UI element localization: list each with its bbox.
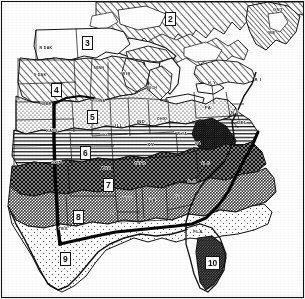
zone-label-5: 5 [87, 110, 98, 124]
state-label-la: LA [111, 211, 118, 216]
zone-label-4: 4 [51, 83, 62, 97]
state-label-r-i: R I [255, 77, 262, 82]
state-label-del: DEL [237, 120, 247, 125]
state-label-tex: TEX [58, 226, 68, 231]
state-label-me: ME [268, 30, 275, 35]
state-label-ala: ALA [146, 197, 156, 202]
state-label-pa: PA [205, 105, 212, 110]
state-label-mich: MICH [147, 86, 157, 91]
state-label-ga: GA [175, 194, 182, 199]
zone-label-8: 8 [73, 210, 84, 224]
zone-label-9: 9 [60, 252, 71, 266]
zone-label-7: 7 [103, 178, 114, 192]
state-label-nebr: NEBR [40, 102, 51, 107]
state-label-tenn: TENN [135, 162, 146, 167]
state-label-okla: OKLA [51, 161, 62, 166]
zone-label-2: 2 [165, 12, 176, 26]
state-label-n-c: N C [202, 161, 211, 166]
state-label-ind: IND [137, 119, 146, 124]
state-label-ky: KY [148, 142, 155, 147]
zone-map-figure: 2345678910 N DAKS DAKNEBRKANSOKLATEXMINN… [0, 0, 305, 299]
state-label-minn: MINN [94, 66, 104, 71]
state-label-s-c: S C [188, 179, 196, 184]
zone-label-10: 10 [205, 256, 220, 270]
state-label-wis: WIS [121, 71, 130, 76]
state-label-s-dak: S DAK [34, 73, 47, 78]
state-label-kans: KANS [46, 129, 57, 134]
state-label-ark: ARK [101, 166, 112, 171]
state-label-w-va: W VA [177, 132, 187, 137]
state-label-ill: ILL [115, 123, 123, 128]
state-label-mo: MO [100, 132, 108, 137]
zone-label-6: 6 [80, 146, 91, 160]
state-label-miss: MISS [122, 197, 132, 202]
state-label-iowa: IOWA [95, 99, 106, 104]
state-label-n-dak: N DAK [40, 46, 53, 51]
state-label-ohio: OHIO [157, 117, 167, 122]
zone-label-3: 3 [82, 36, 93, 50]
state-label-va: VA [195, 141, 202, 146]
state-label-fla: FLA [193, 229, 203, 234]
state-label-n-j: N J [231, 110, 239, 115]
state-label-ont: ONT [273, 7, 283, 12]
state-label-n-y: N Y [208, 80, 216, 85]
